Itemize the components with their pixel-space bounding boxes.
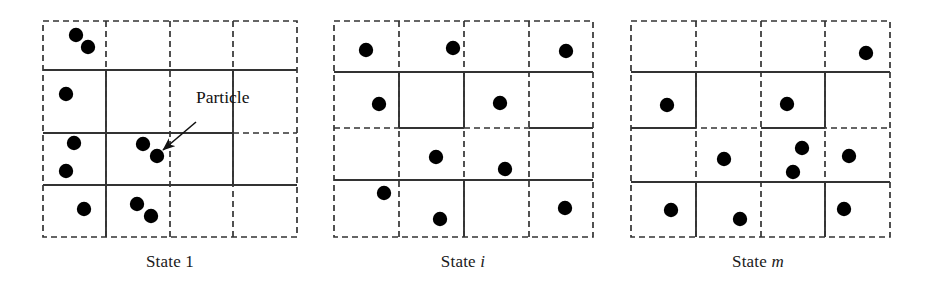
particle	[837, 202, 851, 216]
particle	[733, 212, 747, 226]
particle	[130, 197, 144, 211]
particle	[859, 46, 873, 60]
caption-base: State	[732, 252, 771, 271]
particle	[136, 137, 150, 151]
particle	[69, 28, 83, 42]
panel-state-i	[334, 21, 593, 237]
particles-group	[359, 41, 573, 226]
particle	[59, 87, 73, 101]
particle	[81, 40, 95, 54]
particle	[660, 98, 674, 112]
particle-state-diagram: State 1State iState m Particle	[0, 0, 930, 281]
caption-text: State 1	[146, 252, 194, 272]
particle	[795, 141, 809, 155]
panel-state-1	[43, 21, 297, 237]
caption-text: State i	[441, 252, 485, 272]
particle	[493, 96, 507, 110]
particle	[558, 201, 572, 215]
caption-index: m	[771, 252, 783, 271]
particle	[446, 41, 460, 55]
grid-lattice	[334, 21, 593, 237]
particle	[144, 209, 158, 223]
diagram-canvas	[0, 0, 930, 281]
particle	[372, 97, 386, 111]
panel-state-m	[631, 21, 890, 237]
particle	[664, 203, 678, 217]
particle	[780, 97, 794, 111]
caption-text: State m	[732, 252, 784, 272]
particle	[842, 149, 856, 163]
particle	[377, 186, 391, 200]
particles-group	[59, 28, 164, 223]
caption-index: i	[480, 252, 485, 271]
particle	[429, 150, 443, 164]
particle	[67, 136, 81, 150]
particle	[498, 162, 512, 176]
particle	[150, 149, 164, 163]
annotation-layer	[163, 122, 196, 150]
panels-layer	[43, 21, 890, 237]
particle	[59, 164, 73, 178]
particle	[77, 202, 91, 216]
particle-annotation-label: Particle	[196, 87, 249, 108]
particle	[433, 212, 447, 226]
caption-base: State 1	[146, 252, 194, 271]
particle	[359, 43, 373, 57]
particle	[786, 165, 800, 179]
particle	[559, 44, 573, 58]
caption-base: State	[441, 252, 480, 271]
particle-annotation-arrow	[163, 122, 196, 150]
particle	[717, 152, 731, 166]
